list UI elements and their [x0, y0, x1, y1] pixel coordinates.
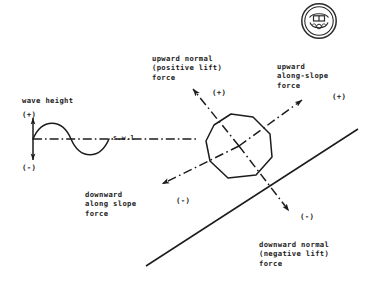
still-water-level-label: s.w.l: [113, 134, 135, 142]
upward-along-slope-force-label: upward along-slope force: [277, 62, 328, 90]
circular-library-stamp-icon: [300, 2, 338, 40]
downward-along-slope-force-sign: (-): [176, 196, 190, 205]
force-arrow-upward-normal: [193, 89, 239, 146]
upward-normal-force-sign: (+): [212, 88, 226, 97]
figure-page: down-right --> down-left --> wave height…: [0, 0, 390, 294]
figure-canvas: down-right --> down-left -->: [0, 0, 390, 294]
wave-positive-sign: (+): [22, 110, 36, 119]
upward-along-slope-force-sign: (+): [332, 92, 346, 101]
wave-height-label: wave height: [22, 96, 73, 105]
downward-normal-force-label: downward normal (negative lift) force: [259, 240, 329, 268]
downward-along-slope-force-label: downward along slope force: [85, 190, 136, 218]
upward-normal-force-label: upward normal (positive lift) force: [152, 54, 222, 82]
downward-normal-force-sign: (-): [300, 212, 314, 221]
wave-negative-sign: (-): [22, 163, 36, 172]
